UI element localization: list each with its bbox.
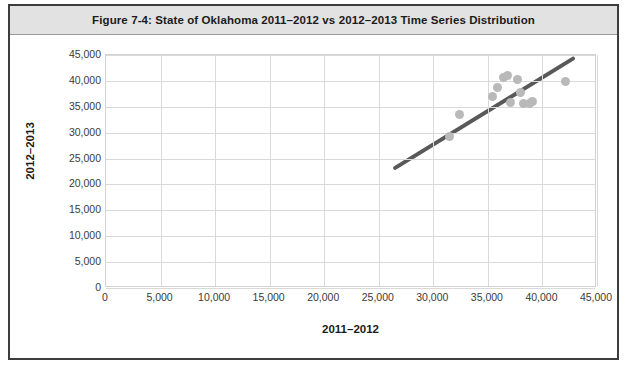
x-axis-ticks: 05,00010,00015,00020,00025,00030,00035,0… xyxy=(105,291,596,309)
data-point xyxy=(516,88,525,97)
y-axis-tick-label: 10,000 xyxy=(39,229,101,241)
gridline-vertical xyxy=(215,55,216,286)
data-point xyxy=(455,110,464,119)
gridline-vertical xyxy=(270,55,271,286)
gridline-vertical xyxy=(433,55,434,286)
gridline-vertical xyxy=(324,55,325,286)
figure-caption-text: Figure 7-4: State of Oklahoma 2011–2012 … xyxy=(92,14,535,26)
gridline-horizontal xyxy=(106,55,595,56)
y-axis-tick-label: 25,000 xyxy=(39,152,101,164)
gridline-horizontal xyxy=(106,184,595,185)
gridline-vertical xyxy=(379,55,380,286)
y-axis-tick-label: 5,000 xyxy=(39,255,101,267)
gridline-vertical xyxy=(597,55,598,286)
chart-area: 2012–2013 05,00010,00015,00020,00025,000… xyxy=(10,35,617,360)
y-axis-tick-label: 45,000 xyxy=(39,48,101,60)
plot-area xyxy=(105,54,596,287)
x-axis-tick-label: 45,000 xyxy=(561,291,629,303)
y-axis-tick-label: 40,000 xyxy=(39,74,101,86)
gridline-horizontal xyxy=(106,159,595,160)
x-axis-title: 2011–2012 xyxy=(105,323,596,335)
gridline-horizontal xyxy=(106,288,595,289)
y-axis-tick-label: 20,000 xyxy=(39,177,101,189)
gridline-horizontal xyxy=(106,236,595,237)
y-axis-tick-label: 30,000 xyxy=(39,126,101,138)
data-point xyxy=(561,77,570,86)
gridline-horizontal xyxy=(106,262,595,263)
y-axis-tick-label: 35,000 xyxy=(39,100,101,112)
gridline-horizontal xyxy=(106,210,595,211)
gridline-vertical xyxy=(488,55,489,286)
gridline-vertical xyxy=(542,55,543,286)
gridline-horizontal xyxy=(106,133,595,134)
y-axis-ticks: 05,00010,00015,00020,00025,00030,00035,0… xyxy=(35,54,101,287)
figure-caption: Figure 7-4: State of Oklahoma 2011–2012 … xyxy=(10,6,617,35)
y-axis-tick-label: 15,000 xyxy=(39,203,101,215)
figure-frame: Figure 7-4: State of Oklahoma 2011–2012 … xyxy=(8,4,619,360)
gridline-vertical xyxy=(161,55,162,286)
data-point xyxy=(528,97,537,106)
